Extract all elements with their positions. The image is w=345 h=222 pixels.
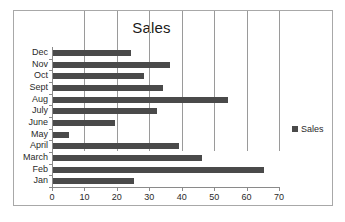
bar-april — [53, 143, 179, 149]
y-tick-mark-sept — [49, 94, 52, 95]
bar-dec — [53, 50, 131, 56]
y-axis-label-nov: Nov — [14, 60, 48, 69]
x-tick-mark-50 — [214, 188, 215, 191]
x-tick-mark-30 — [149, 188, 150, 191]
bar-march — [53, 155, 202, 161]
y-axis-label-aug: Aug — [14, 95, 48, 104]
y-tick-mark-dec — [49, 59, 52, 60]
gridline-20 — [117, 11, 118, 151]
y-axis-label-dec: Dec — [14, 48, 48, 57]
gridline-40 — [182, 11, 183, 151]
y-tick-mark-aug — [49, 105, 52, 106]
y-tick-mark-oct — [49, 82, 52, 83]
bar-jan — [53, 178, 134, 184]
x-tick-label-0: 0 — [37, 192, 67, 202]
gridline-30 — [149, 11, 150, 151]
bar-may — [53, 132, 69, 138]
y-tick-mark-nov — [49, 70, 52, 71]
x-tick-mark-70 — [279, 188, 280, 191]
x-tick-label-60: 60 — [232, 192, 262, 202]
legend-swatch-icon — [292, 126, 298, 132]
x-tick-label-70: 70 — [264, 192, 294, 202]
x-tick-mark-40 — [182, 188, 183, 191]
bar-sept — [53, 85, 163, 91]
y-axis-label-feb: Feb — [14, 165, 48, 174]
bar-feb — [53, 167, 264, 173]
x-tick-label-20: 20 — [102, 192, 132, 202]
gridline-60 — [247, 11, 248, 151]
bar-june — [53, 120, 115, 126]
y-axis-label-jan: Jan — [14, 176, 48, 185]
x-tick-label-50: 50 — [199, 192, 229, 202]
gridline-10 — [84, 11, 85, 151]
y-axis-label-june: June — [14, 118, 48, 127]
y-axis-label-may: May — [14, 130, 48, 139]
legend-label-sales: Sales — [301, 124, 324, 134]
y-axis-label-april: April — [14, 141, 48, 150]
y-tick-mark-may — [49, 140, 52, 141]
bar-aug — [53, 97, 228, 103]
gridline-70 — [279, 11, 280, 151]
y-tick-mark-july — [49, 117, 52, 118]
x-tick-mark-20 — [117, 188, 118, 191]
y-tick-mark-feb — [49, 175, 52, 176]
gridline-50 — [214, 11, 215, 151]
y-axis-label-oct: Oct — [14, 71, 48, 80]
x-tick-mark-0 — [52, 188, 53, 191]
bar-july — [53, 108, 157, 114]
chart-legend: Sales — [292, 124, 324, 134]
x-tick-label-10: 10 — [69, 192, 99, 202]
x-tick-label-40: 40 — [167, 192, 197, 202]
chart-title: Sales — [14, 19, 289, 36]
y-axis-label-sept: Sept — [14, 83, 48, 92]
y-tick-mark-june — [49, 129, 52, 130]
x-tick-mark-10 — [84, 188, 85, 191]
bar-nov — [53, 62, 170, 68]
x-tick-label-30: 30 — [134, 192, 164, 202]
y-axis-label-july: July — [14, 106, 48, 115]
bar-oct — [53, 73, 144, 79]
x-tick-mark-60 — [247, 188, 248, 191]
chart-container: Sales 010203040506070 DecNovOctSeptAugJu… — [13, 10, 333, 206]
y-tick-mark-jan — [49, 187, 52, 188]
y-tick-mark-april — [49, 152, 52, 153]
y-axis-label-march: March — [14, 153, 48, 162]
y-tick-mark-march — [49, 164, 52, 165]
